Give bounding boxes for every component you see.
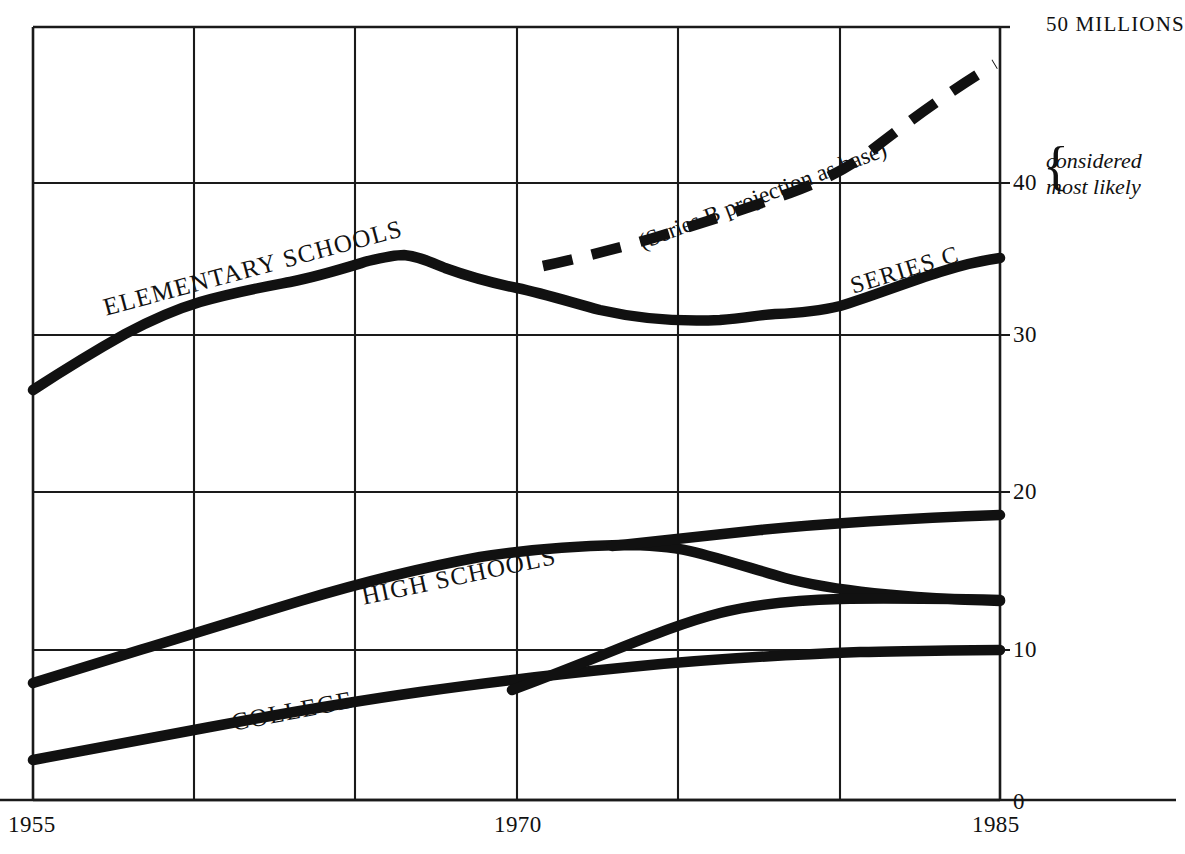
series-line-high-schools-upper xyxy=(612,515,1000,546)
considered-most-likely-note: considered most likely xyxy=(1046,148,1142,199)
grid-lines xyxy=(0,27,1176,800)
series-line-series-b-projection xyxy=(543,64,995,266)
y-tick-label-40: 40 xyxy=(1013,170,1037,196)
x-tick-label-1970: 1970 xyxy=(494,812,542,838)
y-tick-label-10: 10 xyxy=(1013,637,1037,663)
x-tick-label-1955: 1955 xyxy=(8,812,56,838)
y-tick-label-30: 30 xyxy=(1013,322,1037,348)
y-tick-label-20: 20 xyxy=(1013,479,1037,505)
y-tick-marks xyxy=(1000,27,1010,650)
x-tick-label-1985: 1985 xyxy=(972,812,1020,838)
considered-note-line-2: most likely xyxy=(1046,174,1142,200)
y-axis-unit-label: 50 MILLIONS xyxy=(1046,12,1185,37)
considered-note-line-1: considered xyxy=(1046,148,1142,174)
